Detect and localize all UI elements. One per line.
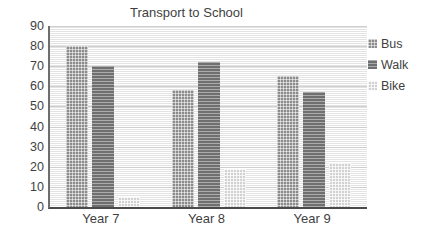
legend-swatch-bike-icon (368, 81, 377, 90)
category-label-year-7: Year 7 (82, 211, 119, 226)
category-label-year-9: Year 9 (294, 211, 331, 226)
y-tick-label-50: 50 (16, 99, 44, 113)
y-axis: 0102030405060708090 (16, 18, 44, 210)
plot-inner (50, 26, 367, 207)
y-tick-label-90: 90 (16, 19, 44, 33)
bar-year-7-bike (118, 197, 140, 207)
y-tick-label-70: 70 (16, 59, 44, 73)
bar-year-8-bus (172, 90, 194, 207)
plot-area (48, 26, 367, 209)
legend-item-bus[interactable]: Bus (368, 33, 426, 54)
chart-title: Transport to School (130, 5, 330, 20)
y-tick-label-40: 40 (16, 120, 44, 134)
bar-year-7-walk (92, 66, 114, 207)
bar-year-9-bus (277, 76, 299, 207)
y-tick-label-80: 80 (16, 39, 44, 53)
bar-year-8-bike (224, 169, 246, 207)
y-tick-label-0: 0 (16, 200, 44, 214)
category-label-year-8: Year 8 (188, 211, 225, 226)
legend-swatch-walk-icon (368, 60, 377, 69)
y-tick-label-10: 10 (16, 180, 44, 194)
chart-legend: BusWalkBike (368, 33, 426, 96)
legend-label-walk: Walk (381, 58, 408, 72)
bar-year-8-walk (198, 62, 220, 207)
legend-item-walk[interactable]: Walk (368, 54, 426, 75)
y-tick-label-60: 60 (16, 79, 44, 93)
bar-year-9-bike (329, 163, 351, 207)
bar-year-7-bus (66, 46, 88, 207)
y-tick-label-30: 30 (16, 140, 44, 154)
legend-swatch-bus-icon (368, 39, 377, 48)
gridline-90 (50, 26, 367, 27)
bar-year-9-walk (303, 92, 325, 207)
gridline-80 (50, 46, 367, 47)
legend-item-bike[interactable]: Bike (368, 75, 426, 96)
transport-to-school-chart: Transport to School 0102030405060708090 … (0, 0, 428, 237)
y-tick-label-20: 20 (16, 160, 44, 174)
legend-label-bus: Bus (381, 37, 403, 51)
legend-label-bike: Bike (381, 79, 405, 93)
